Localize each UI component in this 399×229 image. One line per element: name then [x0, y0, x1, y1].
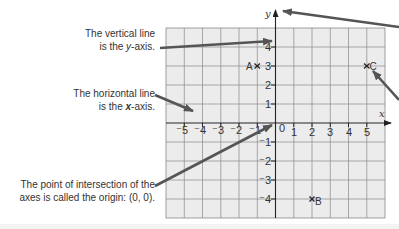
x-tick-label: 5: [364, 126, 370, 138]
y-tick-label: ⁻4: [259, 193, 271, 205]
y-tick-label: 3: [265, 60, 271, 72]
x-tick-label: ⁻3: [212, 124, 224, 136]
y-tick-label: ⁻2: [259, 155, 271, 167]
x-axis-label: x: [379, 108, 385, 119]
point-a-label: A: [246, 61, 253, 72]
callout-arrow-y-label: [283, 11, 399, 27]
y-tick-label: ⁻1: [259, 136, 271, 148]
x-tick-label: ⁻5: [176, 124, 188, 136]
y-axis-label: y: [264, 8, 271, 19]
y-tick-label: 1: [265, 98, 271, 110]
y-tick-label: 2: [265, 79, 271, 91]
point-b-label: B: [315, 196, 322, 207]
x-tick-label: 2: [309, 126, 315, 138]
origin-label: 0: [279, 122, 285, 134]
y-tick-label: ⁻3: [259, 174, 271, 186]
x-tick-label: ⁻4: [194, 124, 206, 136]
x-tick-label: 1: [291, 126, 297, 138]
y-tick-label: 4: [265, 41, 271, 53]
x-tick-label: 3: [327, 126, 333, 138]
x-tick-label: ⁻2: [230, 124, 242, 136]
point-c-label: C: [370, 61, 377, 72]
coordinate-grid-diagram: x y ⁻5 ⁻4 ⁻3 ⁻2 ⁻1 1 2 3 4 5 0: [0, 0, 399, 229]
x-tick-label: 4: [346, 126, 352, 138]
